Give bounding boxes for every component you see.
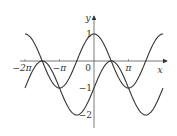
y-tick-label: −2 [79, 110, 92, 120]
y-tick-label: 1 [86, 29, 92, 39]
x-axis-label: x [157, 65, 162, 75]
y-tick-label: −1 [79, 83, 92, 93]
y-axis-label: y [84, 13, 91, 23]
function-graph: −2π−ππ1−1−20xy [0, 0, 177, 136]
origin-label: 0 [85, 63, 91, 73]
x-tick-label: −π [53, 63, 68, 73]
x-tick-label: π [125, 63, 133, 73]
x-tick-label: −2π [12, 63, 32, 73]
